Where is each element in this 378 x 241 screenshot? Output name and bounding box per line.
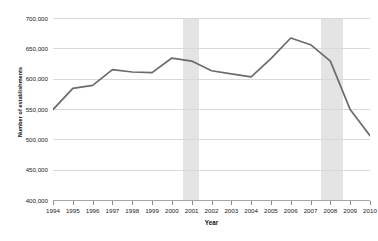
- x-axis-tick: [311, 201, 312, 205]
- x-axis-tick: [212, 201, 213, 205]
- plot-area: [53, 18, 370, 200]
- y-axis-tick-label: 400,000: [4, 197, 48, 204]
- x-axis-tick: [152, 201, 153, 205]
- x-axis-tick-labels: 1994199519961997199819992000200120022003…: [53, 206, 370, 216]
- x-axis-title: Year: [53, 219, 370, 226]
- x-axis-tick: [112, 201, 113, 205]
- x-axis-tick: [192, 201, 193, 205]
- x-axis-tick: [251, 201, 252, 205]
- x-axis-tick: [93, 201, 94, 205]
- y-axis-tick-labels: 400,000450,000500,000550,000600,000650,0…: [4, 0, 48, 241]
- x-axis-tick-label: 2010: [357, 206, 378, 215]
- y-axis-tick-label: 600,000: [4, 75, 48, 82]
- y-axis-tick-label: 650,000: [4, 45, 48, 52]
- x-axis-tick: [291, 201, 292, 205]
- x-axis-tick: [370, 201, 371, 205]
- x-axis-tick: [350, 201, 351, 205]
- y-axis-tick-label: 450,000: [4, 166, 48, 173]
- series-line: [53, 18, 370, 200]
- x-axis-tick: [132, 201, 133, 205]
- x-axis-tick: [231, 201, 232, 205]
- x-axis-tick: [73, 201, 74, 205]
- y-axis-tick-label: 500,000: [4, 136, 48, 143]
- y-axis-tick-label: 700,000: [4, 15, 48, 22]
- x-axis-tick: [271, 201, 272, 205]
- x-axis-tick: [330, 201, 331, 205]
- y-axis-tick-label: 550,000: [4, 106, 48, 113]
- line-chart: Number of establishments 400,000450,0005…: [0, 0, 378, 241]
- x-axis-tick: [172, 201, 173, 205]
- x-axis-tick: [53, 201, 54, 205]
